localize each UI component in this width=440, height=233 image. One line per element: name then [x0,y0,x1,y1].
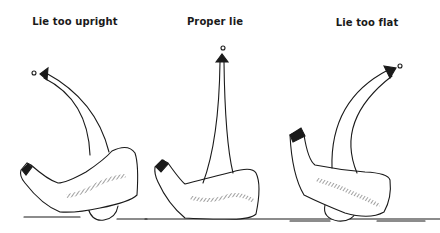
panel-upright: Lie too upright [0,0,146,233]
panel-title: Lie too flat [294,17,440,28]
panel-proper: Proper lie [146,0,292,233]
panel-title: Lie too upright [2,16,148,27]
panel-title: Proper lie [142,16,288,27]
panel-flat: Lie too flat [292,0,438,233]
